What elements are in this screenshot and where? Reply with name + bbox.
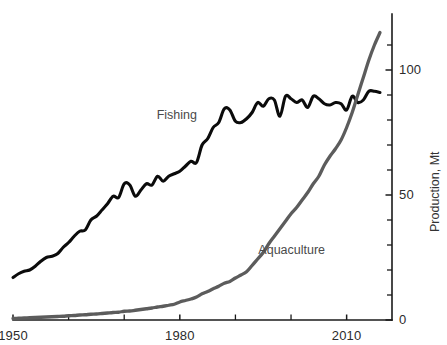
y-axis-tick-label: 50 [399, 187, 414, 202]
data-series-group [13, 33, 380, 319]
chart-plot-area [0, 0, 447, 345]
production-line-chart: 195019802010 050100 Fishing Aquaculture … [0, 0, 447, 345]
y-axis-major-ticks [386, 70, 393, 320]
x-axis-tick-label: 1980 [165, 328, 195, 343]
series-label-fishing: Fishing [157, 108, 197, 122]
x-axis-tick-label: 2010 [332, 328, 362, 343]
series-line-aquaculture [13, 33, 380, 319]
x-axis-tick-label: 1950 [0, 328, 28, 343]
series-label-aquaculture: Aquaculture [258, 243, 325, 257]
y-axis-tick-label: 100 [399, 62, 421, 77]
y-axis-tick-label: 0 [399, 312, 406, 327]
y-axis-title: Production, Mt [428, 151, 442, 232]
axes-group [13, 14, 392, 320]
